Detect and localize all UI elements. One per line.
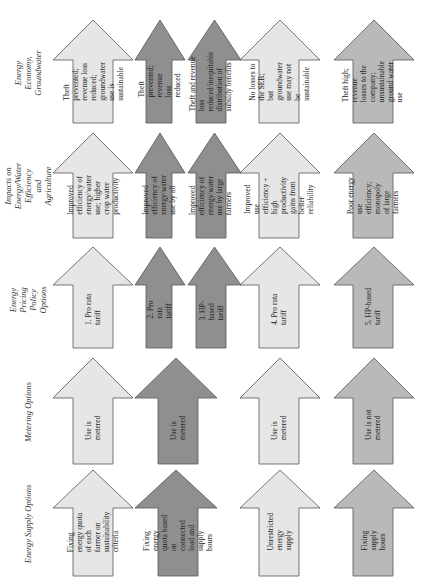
row-label-text: Metering Options	[23, 382, 33, 442]
arrow-label: Poor energy use efficiency; monopoly of …	[346, 176, 400, 214]
arrow-label: Improved efficiency of energy/water use …	[141, 175, 177, 215]
arrow-text-box: Improved efficiency of energy/water use …	[147, 155, 171, 235]
arrow-r2-c3: Improved efficiency of energy/water use …	[188, 133, 241, 238]
arrow-text-box: Theft prevented; revenue loss reduced	[147, 42, 171, 120]
row-label-energy-supply: Energy Supply Options	[6, 472, 50, 576]
arrow-text-box: Theft and revenue loss reduced/inequitab…	[197, 42, 225, 120]
arrow-text-box: Theft high; revenue losses to the compan…	[354, 42, 392, 120]
arrow-text-box: Improved efficiency of energy/water use;…	[74, 155, 112, 235]
arrow-text-box: 2. Pro rata tariff	[147, 268, 171, 345]
arrow-r2-c4: Improved use efficiency + high productiv…	[240, 133, 320, 238]
arrow-label: Use is not metered	[364, 402, 382, 440]
arrow-r5-c5: Fixing supply hours	[334, 470, 414, 576]
arrow-text-box: 3. HP-based tariff	[197, 268, 225, 345]
arrow-text-box: Theft prevented; revenue loss reduced; g…	[74, 42, 112, 120]
row-label-impacts: Impacts on Energy/Water Efficiency and A…	[6, 133, 50, 238]
arrow-label: Theft prevented; revenue loss reduced; g…	[62, 62, 125, 100]
arrow-text-box: Unrestricted energy supply	[260, 491, 298, 573]
arrow-r5-c1: Fixing energy quota of each farmer on su…	[53, 470, 133, 576]
arrow-label: Improved efficiency of energy/water use;…	[66, 175, 120, 215]
arrow-text-box: Fixing energy quota based on connected l…	[159, 491, 197, 573]
arrow-r3-c2: 2. Pro rata tariff	[135, 247, 185, 348]
arrow-label: Use is metered	[84, 402, 102, 440]
arrow-r1-c2: Theft prevented; revenue loss reduced	[135, 20, 185, 123]
arrow-r3-c5: 5. HP-based tariff	[334, 247, 414, 348]
arrow-label: Fixing energy quota of each farmer on su…	[66, 512, 120, 553]
arrow-label: Use is metered	[169, 402, 187, 440]
arrow-text-box: 5. HP-based tariff	[354, 268, 392, 345]
arrow-r3-c1: 1. Pro rata tariff	[53, 247, 133, 348]
arrow-text-box: Fixing supply hours	[354, 491, 392, 573]
row-label-text: Energy Economy, Groundwater	[13, 50, 43, 96]
arrow-text-box: Poor energy use efficiency; monopoly of …	[354, 155, 392, 235]
arrow-label: Fixing energy quota based on connected l…	[142, 513, 214, 551]
arrow-r3-c4: 4. Pro rata tariff	[240, 247, 320, 348]
arrow-label: Theft high; revenue losses to the compan…	[342, 60, 405, 101]
arrow-r3-c3: 3. HP-based tariff	[188, 247, 241, 348]
arrow-label: No losses to the SEB; but groundwater us…	[248, 62, 311, 100]
arrow-r5-c2: Fixing energy quota based on connected l…	[135, 470, 217, 576]
row-label-text: Impacts on Energy/Water Efficiency and A…	[3, 162, 53, 209]
arrow-r4-c2: Use is metered	[135, 358, 217, 464]
arrow-r1-c1: Theft prevented; revenue loss reduced; g…	[53, 20, 133, 123]
arrow-label: 4. Pro rata tariff	[270, 287, 288, 325]
arrow-text-box: 1. Pro rata tariff	[74, 268, 112, 345]
arrow-r4-c4: Use is metered	[240, 358, 320, 464]
row-label-pricing-policy: Energy Pricing Policy Options	[6, 250, 50, 350]
arrow-text-box: Improved use efficiency + high productiv…	[260, 155, 298, 235]
arrow-text-box: Use is metered	[74, 380, 112, 461]
arrow-label: Improved efficiency of energy/water use …	[189, 175, 234, 215]
arrow-r1-c4: No losses to the SEB; but groundwater us…	[240, 20, 320, 123]
arrow-label: 5. HP-based tariff	[364, 287, 382, 325]
arrow-label: Unrestricted energy supply	[266, 513, 293, 551]
arrow-label: Theft and revenue loss reduced/inequitab…	[189, 51, 234, 111]
arrow-text-box: Use is metered	[260, 380, 298, 461]
arrow-r2-c2: Improved efficiency of energy/water use …	[135, 133, 185, 238]
arrow-label: 1. Pro rata tariff	[84, 287, 102, 325]
arrow-r5-c4: Unrestricted energy supply	[240, 470, 320, 576]
arrow-r1-c3: Theft and revenue loss reduced/inequitab…	[188, 20, 241, 123]
arrow-label: Theft prevented; revenue loss reduced	[137, 65, 182, 97]
row-label-energy-economy: Energy Economy, Groundwater	[6, 20, 50, 125]
arrow-text-box: 4. Pro rata tariff	[260, 268, 298, 345]
arrow-text-box: Use is metered	[159, 380, 197, 461]
arrow-text-box: Use is not metered	[354, 380, 392, 461]
arrow-label: 3. HP-based tariff	[198, 292, 225, 320]
arrow-r1-c5: Theft high; revenue losses to the compan…	[334, 20, 414, 123]
arrow-text-box: Fixing energy quota of each farmer on su…	[74, 491, 112, 573]
arrow-r4-c1: Use is metered	[53, 358, 133, 464]
row-label-text: Energy Supply Options	[23, 485, 33, 564]
arrow-text-box: Improved efficiency of energy/water use …	[197, 155, 225, 235]
arrow-r2-c1: Improved efficiency of energy/water use;…	[53, 133, 133, 238]
arrow-text-box: No losses to the SEB; but groundwater us…	[260, 42, 298, 120]
arrow-label: Fixing supply hours	[360, 513, 387, 551]
row-label-text: Energy Pricing Policy Options	[8, 278, 48, 322]
arrow-r2-c5: Poor energy use efficiency; monopoly of …	[334, 133, 414, 238]
arrow-label: 2. Pro rata tariff	[146, 294, 173, 318]
arrow-r4-c5: Use is not metered	[334, 358, 414, 464]
row-label-metering: Metering Options	[6, 362, 50, 462]
arrow-label: Use is metered	[270, 402, 288, 440]
arrow-label: Improved use efficiency + high productiv…	[243, 176, 315, 214]
